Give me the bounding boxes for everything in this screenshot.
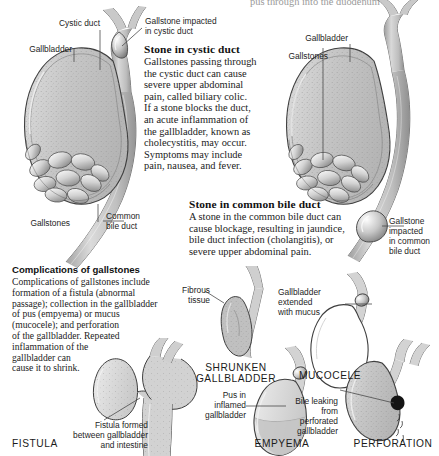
caption-fistula: FISTULA [12,438,112,449]
gallstone-cluster-left [23,141,113,206]
caption-shrunken-gallbladder: SHRUNKEN GALLBLADDER [192,362,280,384]
figure-perforation [340,339,430,442]
leader-lines-right [323,44,404,226]
gallstone-cluster-right [286,142,372,206]
callout-bile-leaking: Bile leaking from perforated gallbladder [272,396,338,436]
caption-perforation: PERFORATION [348,438,438,449]
label-cystic-duct: Cystic duct [8,18,100,28]
clipped-top-caption-text: pus through into the duodenum [250,0,380,7]
label-common-bile-duct: Common bile duct [106,211,166,231]
label-gallstones-left: Gallstones [4,218,70,228]
label-gallstone-impacted-cbd: Gallstone impacted in common bile duct [389,216,439,256]
leader-lines-left [74,28,142,222]
body-stone-common-bile-duct: A stone in the common bile duct can caus… [189,211,349,257]
callout-pus-inflamed: Pus in inflamed gallbladder [190,390,246,420]
body-stone-cystic-duct: Gallstones passing through the cystic du… [144,56,284,172]
heading-stone-cystic-duct: Stone in cystic duct [144,43,240,55]
heading-complications: Complications of gallstones [12,264,140,275]
label-gallbladder-left: Gallbladder [0,44,72,54]
illustration-page: pus through into the duodenum [0,0,439,456]
figure-shrunken-gallbladder [205,266,263,358]
callout-fibrous-tissue: Fibrous tissue [176,285,210,305]
clipped-top-caption: pus through into the duodenum [0,0,439,9]
caption-mucocele: MUCOCELE [294,370,366,381]
callout-gallbladder-extended: Gallbladder extended with mucus [278,287,348,317]
label-gallbladder-right: Gallbladder [272,33,348,43]
heading-stone-common-bile-duct: Stone in common bile duct [189,198,321,210]
label-gallstone-impacted-cystic: Gallstone impacted in cystic duct [145,16,255,36]
body-complications: Complications of gallstones include form… [12,277,192,374]
caption-empyema: EMPYEMA [238,438,326,449]
